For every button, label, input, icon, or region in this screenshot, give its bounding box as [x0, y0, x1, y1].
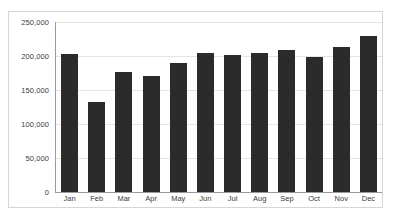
x-tick-label: May — [165, 194, 192, 203]
x-tick-label: Sep — [273, 194, 300, 203]
bar[interactable] — [197, 53, 214, 192]
x-tick-label: Apr — [138, 194, 165, 203]
x-tick-label: Nov — [328, 194, 355, 203]
x-tick-label: Jun — [192, 194, 219, 203]
bar[interactable] — [306, 57, 323, 192]
bar[interactable] — [224, 55, 241, 192]
x-tick-label: Aug — [246, 194, 273, 203]
x-tick-label: Jan — [56, 194, 83, 203]
plot-area — [56, 22, 382, 192]
bar[interactable] — [278, 50, 295, 192]
y-tick-label: 50,000 — [25, 154, 49, 163]
x-tick-label: Jul — [219, 194, 246, 203]
x-axis-tick-labels: JanFebMarAprMayJunJulAugSepOctNovDec — [56, 194, 382, 208]
chart-screenshot: 250,000 200,000 150,000 100,000 50,000 0… — [0, 0, 400, 219]
bar[interactable] — [115, 72, 132, 192]
bar[interactable] — [88, 102, 105, 192]
bar[interactable] — [143, 76, 160, 192]
bar[interactable] — [333, 47, 350, 192]
x-tick-label: Mar — [110, 194, 137, 203]
y-tick-label: 200,000 — [21, 52, 49, 61]
y-axis-tick-labels: 250,000 200,000 150,000 100,000 50,000 0 — [9, 22, 53, 192]
bar[interactable] — [170, 63, 187, 192]
y-tick-label: 250,000 — [21, 18, 49, 27]
top-artifact-strip — [0, 0, 400, 9]
y-tick-label: 100,000 — [21, 120, 49, 129]
chart-frame: 250,000 200,000 150,000 100,000 50,000 0… — [8, 11, 383, 208]
y-tick-label: 150,000 — [21, 86, 49, 95]
bar[interactable] — [360, 36, 377, 192]
bar-series — [56, 22, 382, 192]
gridline-baseline-0 — [56, 192, 382, 193]
y-tick-label: 0 — [45, 188, 49, 197]
bar[interactable] — [61, 54, 78, 192]
bar[interactable] — [251, 53, 268, 192]
x-tick-label: Oct — [301, 194, 328, 203]
x-tick-label: Dec — [355, 194, 382, 203]
x-tick-label: Feb — [83, 194, 110, 203]
